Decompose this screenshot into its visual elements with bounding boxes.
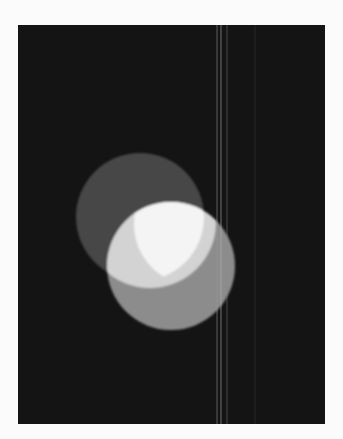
overlapping-discs-figure (0, 0, 343, 439)
image-canvas: Photograph of overlapping translucent li… (0, 0, 343, 439)
